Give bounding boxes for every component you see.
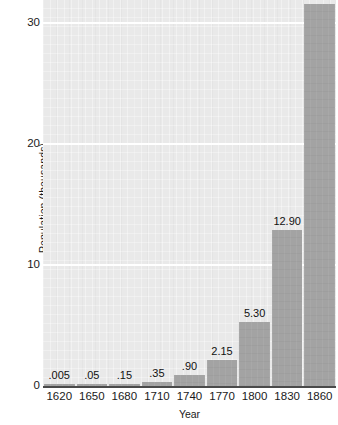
x-tick-label-1860: 1860 [301, 390, 338, 404]
y-tick-label-30: 30 [16, 17, 40, 29]
gridline-30 [43, 22, 336, 24]
y-tick-label-20: 20 [16, 138, 40, 150]
x-axis-title: Year [43, 408, 336, 420]
bar-value-label-1770: 2.15 [201, 346, 244, 357]
bar-value-label-1800: 5.30 [233, 308, 276, 319]
bar-value-label-1740: .90 [168, 361, 211, 372]
y-tick-label-0: 0 [16, 380, 40, 392]
y-tick-label-10: 10 [16, 259, 40, 271]
bar-value-label-1830: 12.90 [266, 216, 309, 227]
bar-1740 [174, 375, 205, 386]
bar-1800 [239, 322, 270, 386]
x-axis-tick-labels: 162016501680171017401770180018301860 [43, 390, 336, 406]
bar-1860 [304, 4, 335, 386]
x-tick-label-1650: 1650 [74, 390, 111, 404]
x-axis-line [43, 386, 336, 388]
y-axis-tick-labels: 0102030 [12, 0, 40, 425]
x-tick-label-1680: 1680 [106, 390, 143, 404]
bar-1830 [272, 230, 303, 386]
population-bar-chart: Population (thousands) 0102030 .005.05.1… [0, 0, 338, 425]
x-tick-label-1620: 1620 [41, 390, 78, 404]
plot-area: .005.05.15.35.902.155.3012.9031.50 [43, 0, 336, 386]
x-tick-label-1800: 1800 [236, 390, 273, 404]
x-tick-label-1740: 1740 [171, 390, 208, 404]
gridline-20 [43, 143, 336, 145]
x-tick-label-1830: 1830 [269, 390, 306, 404]
bar-1770 [207, 360, 238, 386]
x-tick-label-1770: 1770 [204, 390, 241, 404]
x-tick-label-1710: 1710 [139, 390, 176, 404]
bar-value-label-1860: 31.50 [298, 0, 338, 1]
